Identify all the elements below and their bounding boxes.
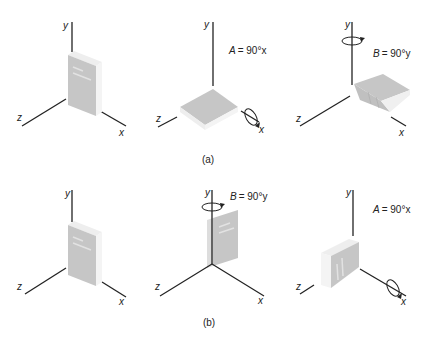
y-axis-label: y <box>344 19 351 30</box>
panel-a2: y z x A= 90°x <box>155 19 266 135</box>
x-axis-label: x <box>398 127 405 138</box>
y-axis-label: y <box>203 19 210 30</box>
book-icon <box>321 239 359 288</box>
x-axis <box>391 117 406 126</box>
x-axis-label: x <box>400 296 407 307</box>
equation-b: B= 90°y <box>373 48 410 59</box>
caption-a: (a) <box>202 154 214 165</box>
panel-a3: y z x B= 90°y <box>295 19 410 138</box>
equation-a: A= 90°x <box>228 45 266 56</box>
z-axis-label: z <box>295 281 301 292</box>
x-axis <box>102 282 126 297</box>
rotation-order-diagram: y z x y z x A= 90°x <box>0 0 430 347</box>
y-axis-label: y <box>204 187 211 198</box>
y-axis-label: y <box>64 188 71 199</box>
z-axis <box>22 99 66 126</box>
z-axis-label: z <box>16 281 22 292</box>
panel-a1: y z x <box>16 20 126 138</box>
panel-b3: y z x A= 90°x <box>295 187 410 307</box>
z-axis-label: z <box>16 112 22 123</box>
x-axis <box>100 111 126 126</box>
x-axis-label: x <box>118 296 125 307</box>
x-axis-label: x <box>258 124 265 135</box>
y-axis-label: y <box>345 187 352 198</box>
book-icon <box>68 221 102 286</box>
z-axis-label: z <box>154 281 160 292</box>
z-axis <box>25 268 66 294</box>
caption-b: (b) <box>203 317 215 328</box>
rotation-arrow-y-icon <box>202 203 225 211</box>
book-icon <box>180 89 238 130</box>
z-axis <box>300 285 314 294</box>
z-axis <box>160 264 212 296</box>
x-axis-label: x <box>257 295 264 306</box>
equation-b: B= 90°y <box>230 191 267 202</box>
x-axis-label: x <box>118 127 125 138</box>
book-icon <box>354 74 410 112</box>
z-axis <box>300 96 350 126</box>
z-axis-label: z <box>155 113 161 124</box>
panel-b1: y z x <box>16 188 126 307</box>
x-axis <box>212 264 264 296</box>
rotation-arrow-y-icon <box>342 37 365 45</box>
book-icon <box>68 51 102 116</box>
equation-a: A= 90°x <box>372 204 410 215</box>
z-axis-label: z <box>295 113 301 124</box>
y-axis-label: y <box>62 20 69 31</box>
panel-b2: y z x B= 90°y <box>154 187 267 306</box>
